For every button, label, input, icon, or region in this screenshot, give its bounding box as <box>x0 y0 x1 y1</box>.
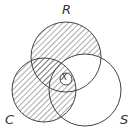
center-marker: X <box>61 72 67 82</box>
label-s: S <box>120 112 128 127</box>
venn-diagram <box>0 0 137 134</box>
label-r: R <box>62 2 71 17</box>
label-c: C <box>5 112 14 127</box>
